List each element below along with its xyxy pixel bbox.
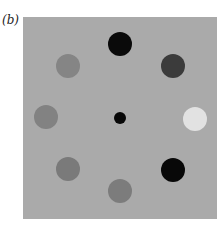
circle-bottom [108,179,132,203]
circle-top [108,32,132,56]
circle-bottom-right [161,158,185,182]
circle-top-right [161,54,185,78]
circle-array [0,0,224,225]
circle-left [34,105,58,129]
circle-right [183,107,207,131]
circle-top-left [56,54,80,78]
circle-center-fixation [114,112,126,124]
circle-bottom-left [56,157,80,181]
